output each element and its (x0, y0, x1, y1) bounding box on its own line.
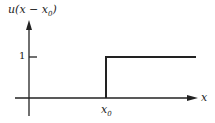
step-sub: 0 (107, 110, 111, 118)
minus-sign: − (26, 3, 42, 16)
step-location-label: x0 (101, 104, 112, 118)
y-axis-arrow-icon (26, 20, 32, 30)
func-name: u (8, 3, 15, 16)
y-tick-label: 1 (19, 51, 25, 61)
x-axis-arrow-icon (187, 95, 198, 101)
shift-sub: 0 (48, 10, 52, 18)
x-axis-label: x (201, 92, 207, 103)
y-axis-label: u(x − x0) (8, 4, 57, 18)
step-curve (106, 57, 196, 98)
